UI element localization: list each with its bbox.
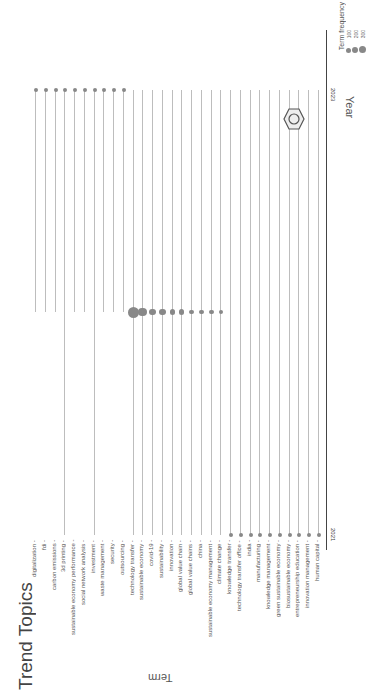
term-stem [279, 90, 280, 535]
term-label: knowledge management - [265, 540, 273, 690]
term-stem [298, 90, 299, 535]
term-stem [250, 90, 251, 535]
term-label: biosustainable economy - [285, 540, 293, 690]
tick-2023: 2023 [330, 88, 336, 101]
term-frequency-dot [122, 88, 126, 92]
term-stem [289, 90, 290, 535]
term-stem [84, 90, 85, 312]
term-frequency-dot [189, 310, 194, 315]
term-frequency-dot [209, 310, 213, 314]
term-stem [103, 90, 104, 312]
x-axis-title: Year [344, 96, 356, 118]
term-frequency-dot [278, 533, 282, 537]
term-label: waste management - [99, 540, 107, 690]
term-frequency-dot [249, 533, 253, 537]
term-label: outsourcing - [119, 540, 127, 690]
term-frequency-dot [159, 309, 165, 315]
term-frequency-dot [138, 308, 147, 317]
term-frequency-dot [102, 88, 106, 92]
term-frequency-dot [73, 88, 77, 92]
term-frequency-dot [44, 88, 48, 92]
term-stem [74, 90, 75, 312]
term-frequency-dot [179, 309, 185, 315]
term-frequency-dot [63, 88, 67, 92]
term-label: global value chains - [187, 540, 195, 690]
term-stem [308, 90, 309, 535]
term-frequency-dot [34, 88, 38, 92]
term-label: sustainable economy - [138, 540, 146, 690]
term-stem [64, 90, 65, 535]
year-axis-line [326, 30, 327, 550]
term-label: investment - [90, 540, 98, 690]
term-frequency-dot [170, 309, 176, 315]
term-label: innovation management - [304, 540, 312, 690]
legend-dot-300 [359, 46, 366, 53]
term-stem [113, 90, 114, 312]
term-stem [55, 90, 56, 312]
term-label: security - [109, 540, 117, 690]
term-label: carbon emissions - [51, 540, 59, 690]
term-stem [318, 90, 319, 535]
legend-label-200: 200 [353, 30, 359, 38]
legend-label-100: 100 [346, 30, 352, 38]
chart-title: Trend Topics [6, 520, 46, 690]
publisher-logo-icon [283, 108, 305, 130]
term-frequency-dot [112, 88, 116, 92]
term-label: technology transfer - [129, 540, 137, 690]
term-label: china - [197, 540, 205, 690]
y-axis-title: Term [148, 672, 172, 684]
term-label: innovation - [168, 540, 176, 690]
term-frequency-dot [317, 533, 321, 537]
term-frequency-dot [54, 88, 58, 92]
term-label: climate change - [216, 540, 224, 690]
term-stem [269, 90, 270, 535]
term-stem [35, 90, 36, 312]
term-frequency-dot [83, 88, 87, 92]
term-stem [94, 90, 95, 535]
term-label: sustainable economy performance - [70, 540, 78, 690]
term-label: social network analysis - [80, 540, 88, 690]
term-frequency-dot [93, 88, 97, 92]
term-label: india - [246, 540, 254, 690]
legend-dot-200 [352, 47, 358, 53]
term-frequency-dot [149, 309, 155, 315]
legend-title: Term frequency [338, 2, 345, 50]
legend-label-300: 300 [360, 30, 366, 38]
term-label: manufacturing - [255, 540, 263, 690]
term-label: sustainability - [158, 540, 166, 690]
term-stem [123, 90, 124, 312]
term-label: 3d printing - [60, 540, 68, 690]
term-label: fdi - [41, 540, 49, 690]
term-frequency-dot [219, 310, 223, 314]
term-frequency-dot [288, 533, 292, 537]
term-stem [259, 90, 260, 535]
term-frequency-dot [229, 533, 233, 537]
term-stem [230, 90, 231, 535]
term-frequency-dot [199, 310, 204, 315]
term-frequency-dot [258, 533, 262, 537]
term-frequency-dot [239, 533, 243, 537]
term-label: digitalization - [31, 540, 39, 690]
term-label: covid-19 - [148, 540, 156, 690]
term-label: knowledge transfer - [226, 540, 234, 690]
term-label: technology transfer office - [236, 540, 244, 690]
term-label: human capital - [314, 540, 322, 690]
term-stem [240, 90, 241, 535]
term-frequency-dot [307, 533, 311, 537]
tick-2021: 2021 [330, 528, 336, 541]
term-label: green sustainable economy - [275, 540, 283, 690]
term-label: entrepreneurship education - [294, 540, 302, 690]
term-label: global value chain - [177, 540, 185, 690]
term-frequency-dot [268, 533, 272, 537]
term-frequency-dot [297, 533, 301, 537]
legend-dot-100 [346, 48, 351, 53]
term-stem [45, 90, 46, 312]
term-label: sustainable economy management - [207, 540, 215, 690]
